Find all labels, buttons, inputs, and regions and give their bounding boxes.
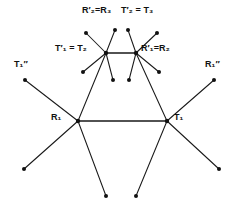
leaf-node-leaf-ur-ne	[155, 31, 159, 35]
edge-hub-lower-left-to-leaf-ll-s	[78, 121, 106, 196]
edge-hub-upper-right-to-leaf-ur-s	[129, 53, 136, 80]
label-t1: T₁	[174, 113, 183, 122]
hub-node-hub-upper-right	[134, 51, 138, 55]
leaf-node-leaf-ul-nw	[84, 31, 88, 35]
leaf-node-leaf-lr-ne	[212, 78, 216, 82]
label-r1-prime-equals-r2: R′₁=R₂	[141, 44, 170, 53]
label-t1-double-prime: T₁″	[14, 60, 28, 69]
label-text: R′₂=R₃	[82, 5, 111, 15]
label-text: T₁″	[14, 59, 28, 69]
hub-node-hub-lower-left	[76, 119, 80, 123]
leaf-node-leaf-ul-n	[113, 28, 117, 32]
edge-hub-upper-right-to-leaf-ur-se	[136, 53, 159, 72]
leaf-node-leaf-ll-s	[104, 194, 108, 198]
hub-node-hub-lower-right	[165, 119, 169, 123]
leaf-node-leaf-ur-n	[126, 28, 130, 32]
label-text: T′₁ = T₂	[55, 43, 87, 53]
hub-node-hub-upper-left	[104, 51, 108, 55]
leaf-node-leaf-lr-se	[217, 167, 221, 171]
edge-hub-upper-left-to-leaf-ul-nw	[86, 33, 106, 53]
edge-hub-upper-right-to-leaf-ur-n	[128, 30, 136, 53]
edge-hub-lower-right-to-hub-upper-right	[136, 53, 167, 121]
leaf-node-leaf-ll-nw	[23, 78, 27, 82]
edge-hub-lower-left-to-leaf-ll-sw	[24, 121, 78, 169]
edge-hub-lower-left-to-hub-upper-left	[78, 53, 106, 121]
label-t2-prime-equals-t3: T′₂ = T₃	[121, 6, 153, 15]
leaf-node-leaf-ll-sw	[22, 167, 26, 171]
edge-hub-lower-right-to-leaf-lr-se	[167, 121, 219, 169]
leaf-node-leaf-ul-sw	[81, 70, 85, 74]
leaf-node-leaf-ur-s	[127, 78, 131, 82]
edge-hub-lower-right-to-leaf-lr-s	[136, 121, 167, 196]
leaf-node-leaf-ur-se	[157, 70, 161, 74]
label-t1-prime-equals-t2: T′₁ = T₂	[55, 44, 87, 53]
label-r1: R₁	[51, 113, 61, 122]
label-text: R₁	[51, 112, 61, 122]
label-text: T′₂ = T₃	[121, 5, 153, 15]
leaf-node-leaf-ul-s	[111, 78, 115, 82]
node-diagram-canvas	[0, 0, 239, 204]
label-text: R′₁=R₂	[141, 43, 170, 53]
diagram-root: R′₂=R₃ T′₂ = T₃ T′₁ = T₂ R′₁=R₂ T₁″ R₁″ …	[0, 0, 239, 204]
label-r2-prime-equals-r3: R′₂=R₃	[82, 6, 111, 15]
label-text: T₁	[174, 112, 183, 122]
edge-hub-upper-left-to-leaf-ul-n	[106, 30, 115, 53]
label-r1-double-prime: R₁″	[205, 60, 220, 69]
label-text: R₁″	[205, 59, 220, 69]
leaf-node-leaf-lr-s	[134, 194, 138, 198]
edge-hub-upper-left-to-leaf-ul-s	[106, 53, 113, 80]
